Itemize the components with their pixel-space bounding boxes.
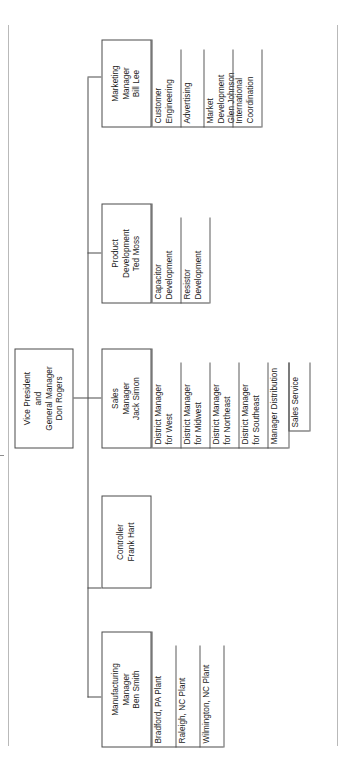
leaf-manufacturing-2[interactable]: Wilmington, NC Plant	[200, 645, 223, 747]
connector-division-rail	[87, 77, 88, 697]
node-product-development[interactable]: Product Development Ted Moss	[101, 203, 151, 303]
connector-stem-sales	[87, 397, 101, 398]
connector-stem-controller	[87, 587, 101, 588]
leaf-product-development-1[interactable]: Resistor Development	[181, 217, 209, 303]
node-vice-president[interactable]: Vice President and General Manager Don R…	[14, 348, 73, 448]
leaf-sales-1[interactable]: District Manager for Midwest	[181, 362, 209, 448]
leaf-sales-0[interactable]: District Manager for West	[152, 362, 180, 448]
leaf-sales-2[interactable]: District Manager for Northeast	[210, 362, 238, 448]
leaf-manufacturing-0[interactable]: Bradford, PA Plant	[152, 645, 175, 747]
edge-product-development-leaf-group	[152, 302, 209, 303]
connector-stem-product-development	[87, 252, 101, 253]
leaf-sales-4[interactable]: Manager Distribution	[268, 362, 288, 448]
leaf-sales-service[interactable]: Sales Service	[289, 362, 309, 431]
divider-product-development-1	[209, 217, 210, 303]
leaf-marketing-0[interactable]: Customer Engineering	[152, 49, 180, 127]
edge-manufacturing-leaf-group	[152, 746, 223, 747]
divider-manufacturing-2	[223, 645, 224, 747]
leaf-marketing-1[interactable]: Advertising	[181, 49, 203, 127]
node-manufacturing[interactable]: Manufacturing Manager Ben Smith	[101, 631, 151, 747]
org-chart: Vice President and General Manager Don R…	[0, 0, 347, 761]
connector-stem-manufacturing	[87, 696, 101, 697]
node-controller[interactable]: Controller Frank Hart	[101, 495, 151, 588]
divider-sales-service	[309, 362, 310, 431]
leaf-manufacturing-1[interactable]: Raleigh, NC Plant	[176, 645, 199, 747]
leaf-marketing-3[interactable]: International Coordination	[233, 49, 261, 127]
edge-sales-leaf-group	[152, 447, 288, 448]
edge-marketing-leaf-group	[152, 126, 261, 127]
node-marketing[interactable]: Marketing Manager Bill Lee	[101, 39, 151, 127]
chart-page: Vice President and General Manager Don R…	[0, 0, 347, 761]
leaf-marketing-2[interactable]: Market Development Glen Johnson	[204, 49, 232, 127]
connector-stem-marketing	[87, 76, 101, 77]
connector-root-stem	[73, 397, 87, 398]
node-sales[interactable]: Sales Manager Jack Simon	[101, 348, 151, 448]
leaf-product-development-0[interactable]: Capacitor Development	[152, 217, 180, 303]
divider-marketing-3	[261, 49, 262, 127]
leaf-sales-3[interactable]: District Manager for Southeast	[239, 362, 267, 448]
edge-sales-service-group	[289, 430, 309, 431]
